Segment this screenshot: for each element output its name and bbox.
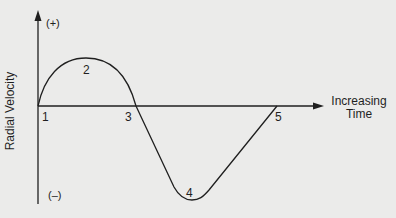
point-label-4: 4 [186, 187, 193, 199]
point-label-2: 2 [83, 64, 90, 76]
x-axis-label-line2: Time [324, 108, 394, 121]
point-label-3: 3 [125, 111, 132, 123]
x-axis-label: Increasing Time [324, 95, 394, 121]
y-axis-label: Radial Velocity [3, 56, 17, 166]
y-negative-label: (–) [48, 189, 61, 201]
x-axis-arrow-icon [313, 103, 324, 110]
point-label-1: 1 [42, 111, 49, 123]
velocity-curve [38, 58, 277, 200]
point-label-5: 5 [275, 111, 282, 123]
y-axis-arrow-icon [35, 10, 42, 21]
radial-velocity-diagram: (+) (–) Radial Velocity Increasing Time … [0, 0, 396, 218]
y-positive-label: (+) [46, 17, 60, 29]
